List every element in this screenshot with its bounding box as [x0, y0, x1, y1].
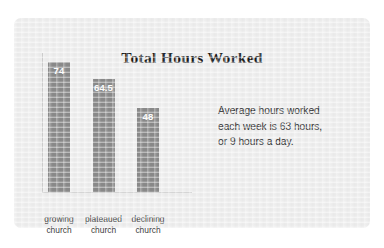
chart-figure: Total Hours Worked 74 64.5 48 growing ch…	[0, 0, 384, 248]
annotation-line: Average hours worked	[218, 103, 358, 119]
category-label-line: church	[120, 225, 176, 236]
bar-value-label: 48	[137, 111, 159, 122]
bar-value-label: 74	[48, 65, 70, 76]
bar-plateaued-church[interactable]: 64.5	[93, 79, 115, 192]
plot-area: 74 64.5 48	[42, 53, 202, 193]
category-axis-labels: growing church plateaued church declinin…	[28, 214, 198, 240]
annotation-line: each week is 63 hours,	[218, 119, 358, 135]
bar-declining-church[interactable]: 48	[137, 108, 159, 192]
chart-annotation: Average hours worked each week is 63 hou…	[218, 103, 358, 150]
category-label-declining-church: declining church	[120, 214, 176, 235]
category-label-line: declining	[120, 214, 176, 225]
chart-panel: Total Hours Worked 74 64.5 48 growing ch…	[14, 18, 370, 228]
y-axis-line	[42, 53, 43, 193]
bar-value-label: 64.5	[93, 82, 115, 93]
bar-growing-church[interactable]: 74	[48, 62, 70, 192]
x-axis-line	[42, 192, 192, 193]
annotation-line: or 9 hours a day.	[218, 134, 358, 150]
